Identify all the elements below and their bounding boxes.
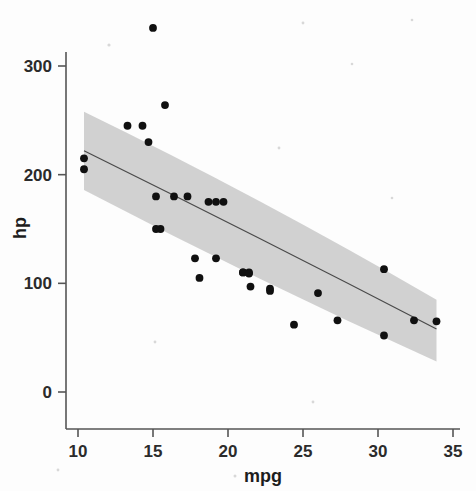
data-point — [433, 317, 441, 325]
data-point — [380, 265, 388, 273]
data-point — [334, 316, 342, 324]
data-point — [205, 198, 213, 206]
data-point — [152, 193, 160, 201]
data-point — [152, 225, 160, 233]
y-tick-label: 300 — [24, 57, 52, 76]
chart-figure: 101520253035 0100200300 mpg hp — [0, 0, 476, 491]
data-point — [410, 316, 418, 324]
data-point — [212, 198, 220, 206]
data-point — [266, 285, 274, 293]
data-point — [161, 101, 169, 109]
confidence-ribbon — [84, 112, 437, 362]
y-tick-label: 100 — [24, 274, 52, 293]
data-point — [191, 254, 199, 262]
data-point — [212, 254, 220, 262]
data-point — [290, 321, 298, 329]
scatter-plot-canvas: 101520253035 0100200300 mpg hp — [0, 0, 476, 491]
x-tick-label: 15 — [144, 442, 163, 461]
y-axis-title: hp — [10, 217, 30, 239]
data-point — [245, 270, 253, 278]
data-point — [314, 289, 322, 297]
x-tick-label: 30 — [369, 442, 388, 461]
data-point — [124, 122, 132, 130]
data-point — [196, 274, 204, 282]
data-point — [145, 138, 153, 146]
data-point — [149, 24, 157, 32]
x-axis-title: mpg — [244, 466, 282, 486]
x-axis-ticks: 101520253035 — [69, 429, 463, 461]
data-point — [170, 193, 178, 201]
data-point — [247, 283, 255, 291]
y-tick-label: 0 — [43, 383, 52, 402]
data-point — [220, 198, 228, 206]
x-tick-label: 20 — [219, 442, 238, 461]
data-point — [139, 122, 147, 130]
data-point — [80, 154, 88, 162]
data-point — [184, 193, 192, 201]
x-tick-label: 35 — [444, 442, 463, 461]
x-tick-label: 10 — [69, 442, 88, 461]
y-tick-label: 200 — [24, 166, 52, 185]
x-tick-label: 25 — [294, 442, 313, 461]
data-point — [380, 332, 388, 340]
data-point — [80, 165, 88, 173]
